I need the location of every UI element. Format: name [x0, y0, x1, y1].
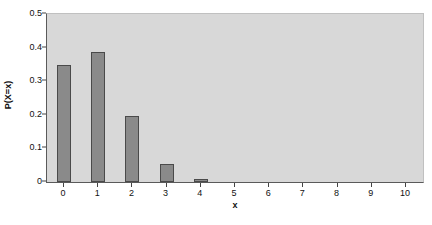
bar	[194, 179, 208, 182]
x-axis-tick-mark	[302, 183, 303, 187]
x-axis-tick-label: 8	[322, 189, 352, 198]
y-axis-tick-label: 0.5	[16, 9, 42, 18]
x-axis-tick-mark	[268, 183, 269, 187]
x-axis-tick-mark	[166, 183, 167, 187]
x-axis-tick-mark	[131, 183, 132, 187]
bar	[125, 116, 139, 182]
x-axis-tick-mark	[337, 183, 338, 187]
bar	[160, 164, 174, 182]
x-axis-tick-label: 6	[253, 189, 283, 198]
x-axis-tick-mark	[234, 183, 235, 187]
x-axis-tick-label: 4	[185, 189, 215, 198]
x-axis-tick-mark	[371, 183, 372, 187]
y-axis-tick-label: 0.4	[16, 42, 42, 51]
x-axis-tick-mark	[63, 183, 64, 187]
x-axis-tick-mark	[97, 183, 98, 187]
plot-area	[46, 13, 424, 183]
x-axis-tick-label: 0	[48, 189, 78, 198]
y-axis-tick-label: 0.3	[16, 76, 42, 85]
x-axis-tick-label: 1	[82, 189, 112, 198]
x-axis-tick-mark	[405, 183, 406, 187]
x-axis-tick-mark	[200, 183, 201, 187]
x-axis-tick-label: 2	[116, 189, 146, 198]
x-axis-tick-label: 7	[287, 189, 317, 198]
y-axis-tick-label: 0.1	[16, 143, 42, 152]
x-axis-tick-label: 9	[356, 189, 386, 198]
x-axis-tick-label: 5	[219, 189, 249, 198]
x-axis-title: x	[46, 200, 424, 210]
y-axis-tick-label: 0.2	[16, 109, 42, 118]
y-axis-tick-label: 0	[16, 177, 42, 186]
y-axis-ticks: 00.10.20.30.40.5	[12, 0, 42, 225]
bar	[57, 65, 71, 182]
bar	[91, 52, 105, 182]
x-axis-tick-label: 10	[390, 189, 420, 198]
poisson-bar-chart: P(X=x) 00.10.20.30.40.5 012345678910 x	[0, 0, 432, 225]
x-axis-tick-label: 3	[151, 189, 181, 198]
